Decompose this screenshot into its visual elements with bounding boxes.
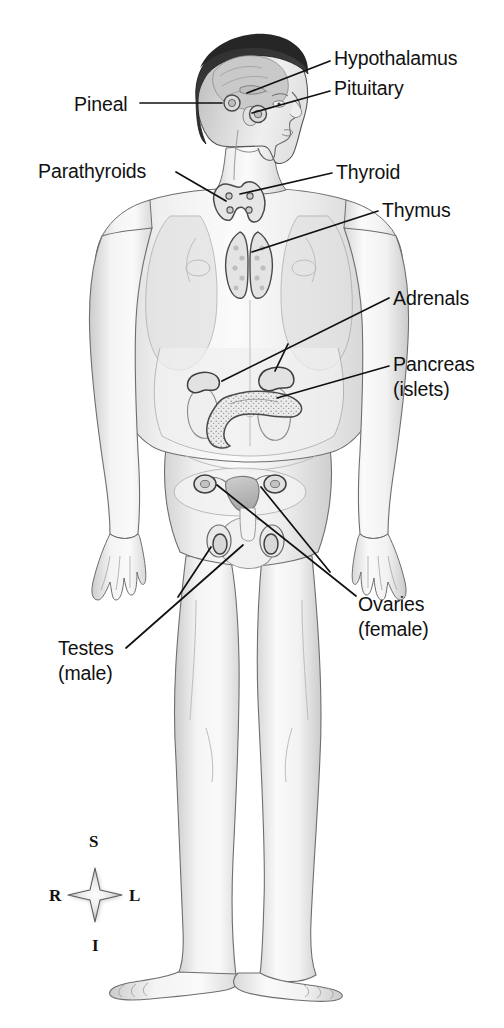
label-pancreas: Pancreas(islets) <box>393 352 475 402</box>
label-thyroid-line1: Thyroid <box>336 160 400 184</box>
label-pineal: Pineal <box>74 92 128 116</box>
right-adrenal <box>259 367 294 390</box>
label-adrenals-line1: Adrenals <box>393 286 469 310</box>
orientation-compass <box>68 868 123 923</box>
label-adrenals: Adrenals <box>393 286 469 310</box>
figure-canvas: HypothalamusPituitaryPinealParathyroidsT… <box>0 0 504 1028</box>
label-testes: Testes(male) <box>58 636 114 686</box>
parathyroid-2 <box>247 193 253 199</box>
compass-label-inferior: I <box>92 936 99 956</box>
label-testes-line1: Testes <box>58 636 114 661</box>
label-ovaries: Ovaries(female) <box>358 592 429 642</box>
compass-label-left: L <box>129 886 140 906</box>
parathyroid-1 <box>226 193 232 199</box>
label-ovaries-line2: (female) <box>358 617 429 642</box>
parathyroid-4 <box>246 207 252 213</box>
compass-label-right: R <box>49 886 61 906</box>
label-pituitary-line1: Pituitary <box>334 76 404 100</box>
pituitary-gland <box>250 106 267 123</box>
label-hypothalamus: Hypothalamus <box>334 46 457 70</box>
right-ovary <box>264 475 286 493</box>
anatomical-illustration <box>0 0 504 1028</box>
label-thymus: Thymus <box>382 198 451 222</box>
parathyroid-3 <box>227 207 233 213</box>
left-foot <box>110 972 240 1000</box>
label-parathyroids: Parathyroids <box>38 159 146 183</box>
label-parathyroids-line1: Parathyroids <box>38 159 146 183</box>
label-thymus-line1: Thymus <box>382 198 451 222</box>
left-ovary <box>194 475 216 493</box>
left-leg <box>174 556 239 982</box>
right-leg <box>257 556 321 982</box>
pineal-gland <box>224 95 240 111</box>
compass-label-superior: S <box>89 832 98 852</box>
label-testes-line2: (male) <box>58 661 114 686</box>
label-pituitary: Pituitary <box>334 76 404 100</box>
left-adrenal <box>187 372 219 392</box>
label-thyroid: Thyroid <box>336 160 400 184</box>
label-pancreas-line2: (islets) <box>393 377 475 402</box>
label-pineal-line1: Pineal <box>74 92 128 116</box>
left-testis <box>207 525 231 557</box>
compass-star <box>68 868 122 922</box>
label-hypothalamus-line1: Hypothalamus <box>334 46 457 70</box>
label-pancreas-line1: Pancreas <box>393 352 475 377</box>
label-ovaries-line1: Ovaries <box>358 592 429 617</box>
